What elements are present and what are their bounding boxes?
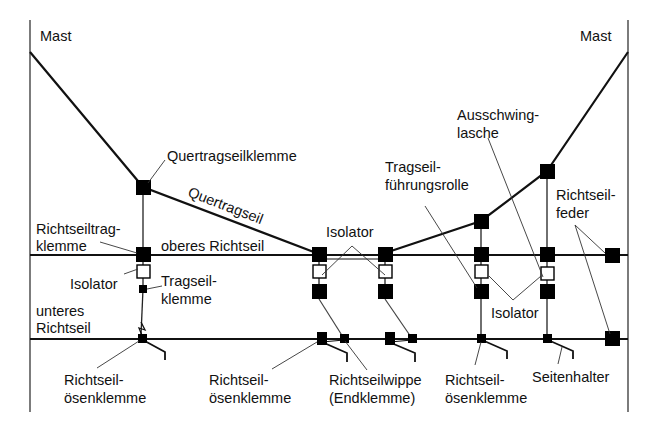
leader-isolator-center (322, 246, 385, 275)
leader-oesenklemme-c (475, 342, 481, 365)
label-unteres-richtseil-1: unteres (36, 303, 84, 319)
label-tragseilklemme-1: Tragseil- (161, 273, 217, 289)
clamp-r2-top (540, 247, 555, 262)
leader-wippe (345, 341, 367, 370)
label-tragseilfuehrungsrolle-1: Tragseil- (385, 159, 441, 175)
fuehrungsrolle-block (474, 214, 489, 229)
leader-isolator-left (124, 269, 138, 274)
leader-richtseilfeder (575, 225, 610, 334)
richtseiltragklemme-block (136, 247, 151, 262)
label-oesenklemme-a-1: Richtseil- (64, 372, 124, 388)
label-ausschwinglasche-2: lasche (457, 125, 499, 141)
label-richtseiltragklemme-2: klemme (36, 238, 87, 254)
leader-oesenklemme-b (272, 342, 317, 369)
clamp-c1-bottom (312, 284, 327, 299)
seitenhalter-block (543, 334, 552, 343)
leader-isolator-right (489, 276, 541, 300)
label-isolator-right: Isolator (491, 305, 539, 321)
label-mast-left: Mast (40, 28, 71, 44)
cross-span-diagram: Mast Mast Quertragseilklemme Quertragsei… (0, 0, 653, 436)
label-richtseilfeder-2: feder (556, 205, 589, 221)
label-oesenklemme-c-1: Richtseil- (445, 372, 505, 388)
label-tragseilklemme-2: klemme (161, 291, 212, 307)
dropper-c2 (385, 299, 411, 337)
label-quertragseil: Quertragseil (186, 184, 265, 227)
isolator-left (137, 265, 150, 278)
label-isolator-center: Isolator (326, 224, 374, 240)
richtseilfeder-upper (605, 248, 620, 263)
clamp-c2-bottom (378, 284, 393, 299)
label-oesenklemme-a-2: ösenklemme (64, 390, 146, 406)
label-richtseilfeder-1: Richtseil- (556, 187, 616, 203)
leader-fuehrungsrolle (425, 206, 477, 288)
isolator-r1 (475, 265, 488, 278)
richtseilfeder-lower (605, 331, 620, 346)
label-richtseiltragklemme-1: Richtseiltrag- (36, 221, 121, 237)
ausschwinglasche-block (540, 164, 555, 179)
label-richtseilwippe-2: (Endklemme) (329, 390, 415, 406)
label-ausschwinglasche-1: Ausschwing- (457, 107, 539, 123)
tragseilklemme-block (139, 285, 147, 293)
label-seitenhalter: Seitenhalter (532, 369, 610, 385)
dropper-c1 (319, 299, 343, 337)
wippe-c1-right (340, 334, 349, 343)
wippe-c2-left (385, 332, 395, 345)
quertragseil-right (385, 52, 628, 253)
clamp-c2-top (378, 247, 393, 262)
clamp-r1-top (474, 247, 489, 262)
leader-quertragseilklemme (148, 160, 165, 183)
wippe-c2-right (408, 334, 417, 343)
label-isolator-left: Isolator (70, 276, 118, 292)
leader-tragseilklemme (147, 286, 162, 289)
clamp-c1-top (312, 247, 327, 262)
oesenklemme-a-block (138, 334, 147, 343)
leader-seitenhalter (558, 347, 562, 364)
isolator-c1 (313, 265, 326, 278)
leader-oesenklemme-a (97, 341, 139, 368)
isolator-r2 (541, 267, 554, 280)
wippe-c1-left (317, 332, 327, 345)
label-oesenklemme-b-2: ösenklemme (209, 390, 291, 406)
label-oesenklemme-b-1: Richtseil- (209, 372, 269, 388)
oesenklemme-c-block (477, 334, 486, 343)
leader-richtseiltragklemme (100, 242, 137, 253)
label-quertragseilklemme: Quertragseilklemme (167, 148, 297, 164)
label-unteres-richtseil-2: Richtseil (36, 320, 91, 336)
label-richtseilwippe-1: Richtseilwippe (329, 372, 422, 388)
label-mast-right: Mast (580, 28, 611, 44)
clamp-r2-bottom (540, 284, 555, 299)
label-oesenklemme-c-2: ösenklemme (445, 390, 527, 406)
leader-ausschwinglasche (488, 138, 543, 277)
label-oberes-richtseil: oberes Richtseil (161, 238, 264, 254)
label-tragseilfuehrungsrolle-2: führungsrolle (385, 177, 469, 193)
